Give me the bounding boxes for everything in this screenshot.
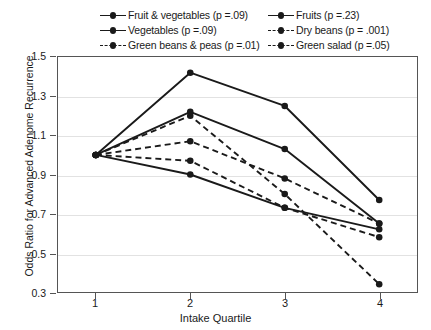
series-line [96, 116, 379, 284]
legend-label: Green salad (p =.05) [296, 40, 390, 51]
data-point-marker [376, 226, 383, 233]
data-point-marker [281, 205, 288, 212]
y-tick-mark [50, 175, 56, 176]
legend-line-symbol-dashed-icon [268, 25, 294, 36]
y-tick-label: 0.3 [4, 288, 46, 298]
x-axis-title: Intake Quartile [0, 312, 431, 324]
legend-label: Fruit & vegetables (p =.09) [128, 10, 248, 21]
y-tick-label: 1.1 [4, 130, 46, 140]
legend-line-symbol-dashed-icon [268, 40, 294, 51]
data-point-marker [376, 234, 383, 241]
plot-area [57, 56, 418, 293]
x-tick-mark [380, 293, 381, 299]
data-point-marker [187, 138, 194, 145]
y-tick-mark [50, 135, 56, 136]
data-point-marker [376, 281, 383, 288]
legend-line-symbol-solid-icon [268, 10, 294, 21]
data-point-marker [281, 191, 288, 198]
y-tick-mark [50, 96, 56, 97]
data-point-marker [376, 197, 383, 204]
y-tick-mark [50, 56, 56, 57]
y-tick-label: 1.5 [4, 51, 46, 61]
legend-line-symbol-dashed-icon [100, 40, 126, 51]
legend-item-green-salad: Green salad (p =.05) [268, 40, 400, 51]
y-axis: Odds Ratio for Advanced Adenome Recurren… [0, 0, 57, 330]
legend-item-dry-beans: Dry beans (p = .001) [268, 25, 400, 36]
legend-label: Fruits (p =.23) [296, 10, 359, 21]
series-layer [58, 57, 417, 292]
legend-label: Vegetables (p =.09) [128, 25, 217, 36]
legend-item-green-beans-peas: Green beans & peas (p =.01) [100, 40, 268, 51]
legend-line-symbol-solid-icon [100, 10, 126, 21]
y-tick-mark [50, 214, 56, 215]
series-green-salad [93, 112, 383, 287]
data-point-marker [187, 158, 194, 165]
legend-label: Green beans & peas (p =.01) [128, 40, 260, 51]
series-green-beans-peas [93, 138, 383, 227]
chart-legend: Fruit & vegetables (p =.09) Fruits (p =.… [100, 8, 400, 53]
legend-item-fruit-vegetables: Fruit & vegetables (p =.09) [100, 10, 268, 21]
legend-item-vegetables: Vegetables (p =.09) [100, 25, 268, 36]
x-tick-mark [190, 293, 191, 299]
y-tick-label: 0.7 [4, 209, 46, 219]
series-fruits [93, 109, 383, 227]
series-line [96, 112, 379, 224]
series-dry-beans [93, 152, 383, 241]
data-point-marker [93, 152, 100, 159]
data-point-marker [281, 146, 288, 153]
legend-item-fruits: Fruits (p =.23) [268, 10, 400, 21]
x-tick-mark [285, 293, 286, 299]
data-point-marker [376, 220, 383, 227]
series-line [96, 141, 379, 223]
data-point-marker [281, 103, 288, 110]
data-point-marker [187, 112, 194, 119]
series-line [96, 155, 379, 229]
y-tick-label: 1.3 [4, 91, 46, 101]
y-tick-mark [50, 254, 56, 255]
data-point-marker [187, 69, 194, 76]
series-line [96, 155, 379, 237]
x-tick-mark [95, 293, 96, 299]
legend-line-symbol-solid-icon [100, 25, 126, 36]
y-tick-mark [50, 293, 56, 294]
y-tick-label: 0.5 [4, 249, 46, 259]
data-point-marker [281, 175, 288, 182]
chart-root: Fruit & vegetables (p =.09) Fruits (p =.… [0, 0, 431, 330]
data-point-marker [187, 171, 194, 178]
y-tick-label: 0.9 [4, 170, 46, 180]
legend-label: Dry beans (p = .001) [296, 25, 389, 36]
